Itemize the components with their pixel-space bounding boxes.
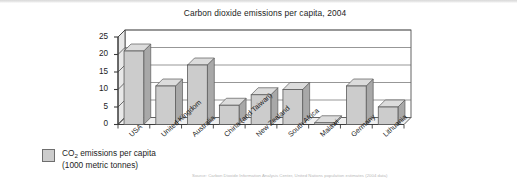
legend-label-line1: CO2 emissions per capita [62,148,156,160]
chart-legend: CO2 emissions per capita (1000 metric to… [42,148,156,171]
y-axis-tick-label: 25 [86,32,108,41]
source-note: Source: Carbon Dioxide Information Analy… [192,173,514,178]
legend-label-line2: (1000 metric tonnes) [62,160,156,172]
bar-front-face [124,51,144,125]
chart-figure: Carbon dioxide emissions per capita, 200… [0,0,517,183]
legend-label-rest: emissions per capita [78,148,156,158]
y-axis-tick-label: 0 [86,119,108,128]
bar-side-face [144,44,151,125]
legend-label-co: CO [62,148,74,158]
bar-group [124,44,151,125]
y-axis-tick-label: 20 [86,49,108,58]
y-axis-tick-label: 5 [86,102,108,111]
legend-swatch-icon [42,149,55,162]
legend-label-subscript: 2 [74,152,77,159]
y-axis-tick-label: 15 [86,67,108,76]
y-axis-tick-label: 10 [86,84,108,93]
legend-label: CO2 emissions per capita (1000 metric to… [62,148,156,171]
